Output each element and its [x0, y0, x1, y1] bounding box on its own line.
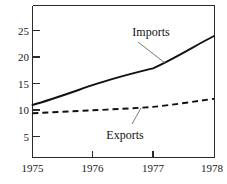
- leader-line-imports: [138, 42, 165, 63]
- y-tick-label-20: 20: [18, 51, 30, 63]
- x-tick-label-1975: 1975: [22, 162, 45, 174]
- x-tick-label-1978: 1978: [201, 162, 224, 174]
- y-tick-label-5: 5: [24, 131, 30, 143]
- chart-screenshot: 25 20 15 10 5 1975 1976 1977 1978 Import…: [0, 0, 227, 184]
- leader-line-exports: [132, 108, 141, 124]
- y-tick-label-10: 10: [18, 104, 30, 116]
- series-label-exports: Exports: [106, 128, 144, 142]
- series-line-imports: [33, 36, 215, 105]
- series-line-exports: [33, 99, 215, 113]
- line-chart: 25 20 15 10 5 1975 1976 1977 1978 Import…: [0, 0, 227, 184]
- x-tick-label-1976: 1976: [82, 162, 105, 174]
- x-tick-label-1977: 1977: [142, 162, 165, 174]
- y-tick-label-15: 15: [18, 78, 30, 90]
- series-label-imports: Imports: [132, 25, 170, 39]
- y-tick-label-25: 25: [18, 25, 30, 37]
